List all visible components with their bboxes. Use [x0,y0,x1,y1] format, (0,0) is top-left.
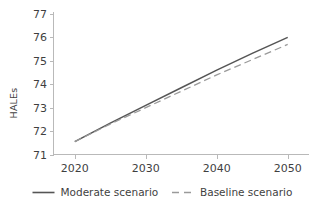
x-axis-tick-label: 2040 [203,162,231,175]
x-axis-tick-label: 2020 [61,162,89,175]
x-axis-tick-label: 2050 [274,162,302,175]
legend-label: Baseline scenario [200,186,292,198]
y-axis-title: HALEs [8,88,19,119]
line-chart: HALEs 71727374757677 2020203020402050 Mo… [0,0,314,208]
y-axis-tick-label: 71 [33,149,47,162]
chart-figure: HALEs 71727374757677 2020203020402050 Mo… [0,0,314,208]
y-axis-tick-label: 73 [33,102,47,115]
y-axis-tick-marks [50,15,54,156]
x-axis-tick-labels: 2020203020402050 [61,162,302,175]
data-series-layer [75,37,288,141]
y-axis-tick-label: 77 [33,8,47,21]
y-axis-tick-label: 76 [33,31,47,44]
legend-label: Moderate scenario [61,186,159,198]
chart-legend: Moderate scenarioBaseline scenario [33,186,293,198]
y-axis-tick-labels: 71727374757677 [33,8,47,162]
x-axis-tick-label: 2030 [132,162,160,175]
y-axis-tick-label: 75 [33,55,47,68]
y-axis-tick-label: 74 [33,78,47,91]
y-axis-tick-label: 72 [33,125,47,138]
x-axis-tick-marks [76,155,289,159]
series-line [75,44,288,141]
